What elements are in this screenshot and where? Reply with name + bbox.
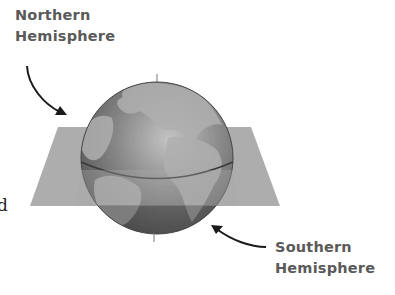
clipped-text-fragment: d [0, 195, 8, 215]
equatorial-plane-front [76, 170, 238, 206]
south-label-line1: Southern [275, 237, 375, 258]
south-arrow [211, 225, 266, 247]
north-arrow [27, 66, 67, 115]
northern-hemisphere-label: Northern Hemisphere [15, 5, 115, 47]
north-label-line2: Hemisphere [15, 26, 115, 47]
southern-hemisphere-label: Southern Hemisphere [275, 237, 375, 279]
south-label-line2: Hemisphere [275, 258, 375, 279]
north-label-line1: Northern [15, 5, 115, 26]
globe [70, 82, 250, 245]
